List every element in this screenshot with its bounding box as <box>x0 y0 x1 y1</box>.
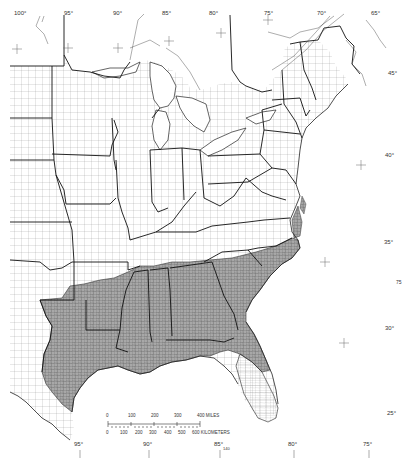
lon-label: 70° <box>317 10 326 16</box>
lon-label: 95° <box>74 441 83 447</box>
lon-label: 80° <box>288 441 297 447</box>
lon-label: 75° <box>264 10 273 16</box>
scale-km-tick: 0 <box>106 430 109 435</box>
scale-km-tick: 100 <box>120 430 128 435</box>
lon-label: 90° <box>113 10 122 16</box>
scale-km-tick: 300 <box>149 430 157 435</box>
lon-label: 65° <box>371 10 380 16</box>
misc-label: 75 <box>396 279 402 285</box>
lat-label: 35° <box>384 239 393 245</box>
lat-label: 25° <box>387 410 396 416</box>
scale-km-tick: 200 <box>135 430 143 435</box>
lat-label: 30° <box>385 325 394 331</box>
lon-label: 90° <box>143 441 152 447</box>
lat-label: 40° <box>385 152 394 158</box>
scale-km-tick: 400 <box>164 430 172 435</box>
scale-bar: 0 100 200 300 400 MILES 0 100 200 300 40… <box>104 409 224 439</box>
lon-label: 100° <box>14 10 26 16</box>
scale-km-tick: 600 KILOMETERS <box>192 430 230 435</box>
lon-label: 95° <box>64 10 73 16</box>
misc-label: 140 <box>223 446 230 451</box>
scale-miles-tick: 0 <box>106 413 109 418</box>
lon-label: 85° <box>214 441 223 447</box>
bottom-ticks <box>80 450 369 458</box>
lat-label: 45° <box>388 70 397 76</box>
scale-miles-tick: 100 <box>128 413 136 418</box>
scale-miles-tick: 400 MILES <box>197 413 219 418</box>
lon-label: 80° <box>209 10 218 16</box>
scale-miles-tick: 200 <box>151 413 159 418</box>
scale-miles-tick: 300 <box>174 413 182 418</box>
scale-km-tick: 500 <box>178 430 186 435</box>
lon-label: 85° <box>162 10 171 16</box>
lon-label: 75° <box>363 441 372 447</box>
map-canvas <box>0 0 408 461</box>
